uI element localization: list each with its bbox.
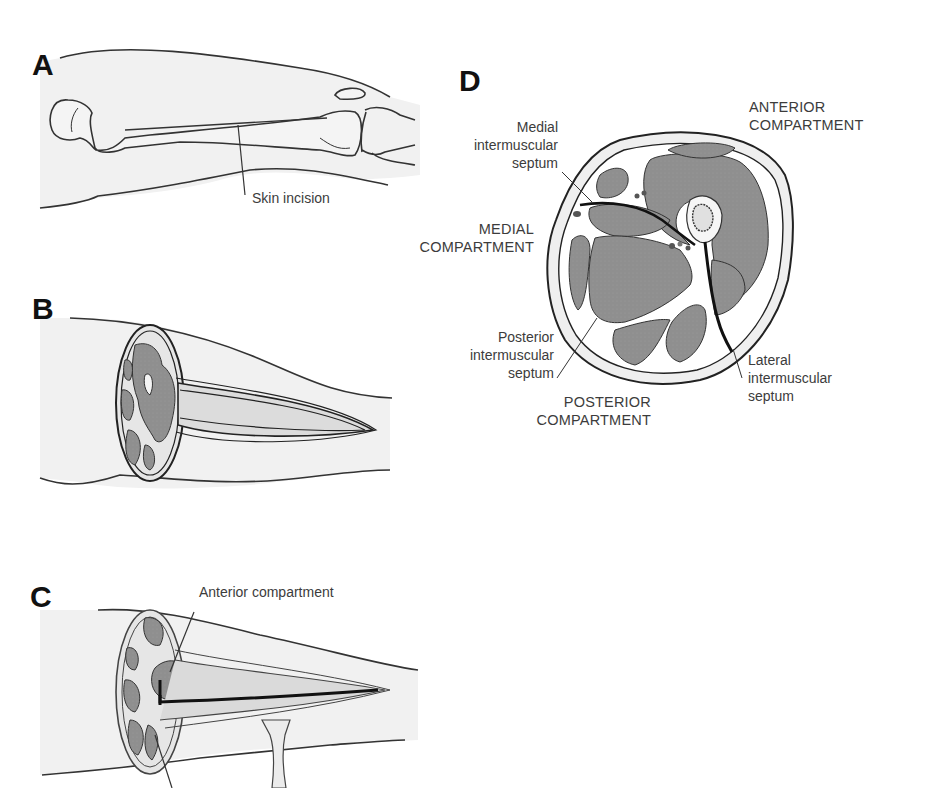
panel-d-cross-section <box>547 132 793 383</box>
label-skin-incision: Skin incision <box>252 189 330 207</box>
label-line: septum <box>450 364 554 382</box>
panel-a-illustration <box>40 50 420 208</box>
label-line: septum <box>462 154 558 172</box>
label-line: MEDIAL <box>396 220 534 238</box>
panel-label-d: D <box>459 64 481 98</box>
label-line: Lateral <box>748 351 832 369</box>
label-line: intermuscular <box>462 136 558 154</box>
label-line: COMPARTMENT <box>749 116 863 134</box>
label-line: intermuscular <box>748 369 832 387</box>
panel-label-b: B <box>32 292 54 326</box>
panel-label-c: C <box>30 580 52 614</box>
label-medial-compartment: MEDIAL COMPARTMENT <box>396 220 534 256</box>
label-line: Medial <box>462 118 558 136</box>
panel-b-illustration <box>40 318 392 488</box>
label-lateral-intermuscular-septum: Lateral intermuscular septum <box>748 351 832 405</box>
label-anterior-compartment-c: Anterior compartment <box>199 583 334 601</box>
panel-c-illustration <box>40 610 418 788</box>
label-posterior-intermuscular-septum: Posterior intermuscular septum <box>450 328 554 382</box>
label-line: Posterior <box>450 328 554 346</box>
label-line: septum <box>748 387 832 405</box>
label-line: ANTERIOR <box>749 98 863 116</box>
label-line: POSTERIOR <box>515 393 651 411</box>
label-line: COMPARTMENT <box>396 238 534 256</box>
label-medial-intermuscular-septum: Medial intermuscular septum <box>462 118 558 172</box>
label-anterior-compartment: ANTERIOR COMPARTMENT <box>749 98 863 134</box>
panel-label-a: A <box>32 48 54 82</box>
label-line: COMPARTMENT <box>515 411 651 429</box>
label-posterior-compartment: POSTERIOR COMPARTMENT <box>515 393 651 429</box>
label-line: intermuscular <box>450 346 554 364</box>
